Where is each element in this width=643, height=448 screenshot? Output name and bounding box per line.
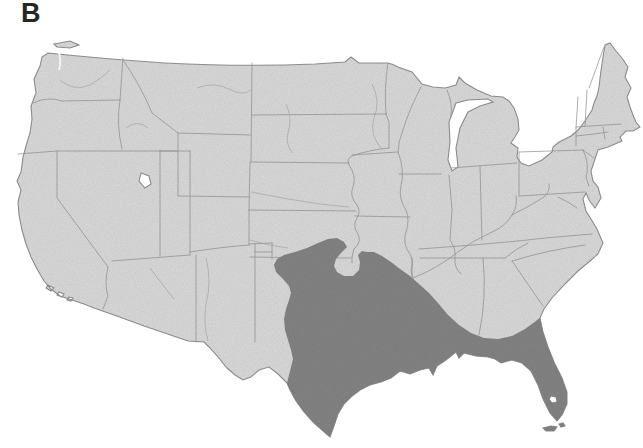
us-map [0, 0, 643, 448]
state-border-line [576, 97, 578, 128]
range-map-figure: B [0, 0, 643, 448]
paper-grain-texture [0, 0, 643, 448]
